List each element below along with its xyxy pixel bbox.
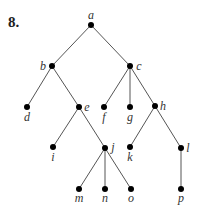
vertex-label-p: p <box>177 191 184 205</box>
vertex-label-n: n <box>102 191 108 205</box>
vertex-label-f: f <box>102 110 107 124</box>
edge-h-k <box>130 106 155 147</box>
vertex-label-o: o <box>128 191 134 205</box>
edge-c-f <box>104 66 130 107</box>
vertex-c <box>127 63 133 69</box>
vertex-label-l: l <box>186 141 190 155</box>
vertex-b <box>49 63 55 69</box>
vertex-label-g: g <box>127 110 133 124</box>
edge-b-e <box>52 66 79 107</box>
vertex-j <box>102 145 108 151</box>
vertex-label-b: b <box>40 59 46 73</box>
edge-a-b <box>52 25 91 66</box>
rooted-tree-diagram: abcdefghijklmnop <box>0 0 201 207</box>
vertex-e <box>76 104 82 110</box>
vertex-label-e: e <box>84 100 90 114</box>
edge-h-l <box>155 106 181 148</box>
vertex-label-i: i <box>51 150 54 164</box>
vertex-h <box>152 103 158 109</box>
edge-j-m <box>79 148 105 189</box>
vertex-label-m: m <box>75 191 84 205</box>
tree-figure: 8. abcdefghijklmnop <box>0 0 201 207</box>
vertex-label-h: h <box>160 99 166 113</box>
problem-number: 8. <box>8 14 19 31</box>
vertex-l <box>178 145 184 151</box>
edge-c-h <box>130 66 155 106</box>
vertex-label-c: c <box>136 59 142 73</box>
vertex-label-d: d <box>24 110 31 124</box>
edge-a-c <box>91 25 130 66</box>
vertex-label-a: a <box>88 8 94 22</box>
vertex-label-j: j <box>109 140 115 154</box>
edge-e-i <box>53 107 79 147</box>
vertex-a <box>88 22 94 28</box>
edge-e-j <box>79 107 105 148</box>
tree-labels: abcdefghijklmnop <box>24 8 190 205</box>
vertex-label-k: k <box>127 150 133 164</box>
